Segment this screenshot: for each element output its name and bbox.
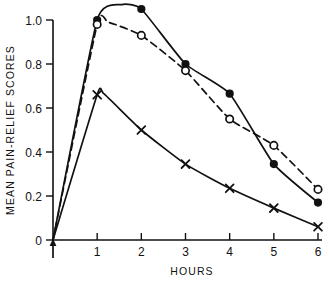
series-layer xyxy=(53,4,322,240)
x-tick-label: 6 xyxy=(315,245,322,259)
y-axis-title: MEAN PAIN-RELIEF SCORES xyxy=(4,45,16,215)
data-point-marker xyxy=(226,115,233,122)
chart-figure: 00.20.40.60.81.0 123456 MEAN PAIN-RELIEF… xyxy=(0,0,329,285)
dose-arrow-icon xyxy=(50,239,57,259)
open-circle-series-curve xyxy=(53,15,318,240)
y-tick-label: 0.4 xyxy=(25,146,42,160)
x-tick-label: 5 xyxy=(270,245,277,259)
y-tick-label: 0.2 xyxy=(25,190,42,204)
y-tick-label: 0 xyxy=(35,234,42,248)
x-tick-label: 2 xyxy=(138,245,145,259)
x-tick-label: 1 xyxy=(94,245,101,259)
data-point-marker xyxy=(182,67,189,74)
data-point-marker xyxy=(226,90,234,98)
data-point-marker xyxy=(270,142,277,149)
filled-circle-series xyxy=(53,4,322,240)
open-circle-series xyxy=(53,15,322,240)
y-tick-label: 0.8 xyxy=(25,58,42,72)
cross-series xyxy=(53,88,322,240)
data-point-marker xyxy=(314,223,322,231)
data-point-marker xyxy=(138,32,145,39)
pain-relief-line-chart: 00.20.40.60.81.0 123456 MEAN PAIN-RELIEF… xyxy=(0,0,329,285)
y-tick-label: 1.0 xyxy=(25,14,42,28)
data-point-marker xyxy=(93,91,101,99)
y-tick-label: 0.6 xyxy=(25,102,42,116)
data-point-marker xyxy=(270,204,278,212)
data-point-marker xyxy=(137,126,145,134)
data-point-marker xyxy=(137,5,145,13)
x-tick-label: 3 xyxy=(182,245,189,259)
data-point-marker xyxy=(182,160,190,168)
data-point-marker xyxy=(314,199,322,207)
data-point-marker xyxy=(270,160,278,168)
data-point-marker xyxy=(314,186,321,193)
x-tick-label: 4 xyxy=(226,245,233,259)
data-point-marker xyxy=(226,184,234,192)
y-tick-group: 00.20.40.60.81.0 xyxy=(25,14,53,248)
x-axis-title: HOURS xyxy=(170,265,213,277)
axes xyxy=(53,20,322,240)
x-tick-group: 123456 xyxy=(94,233,322,259)
data-point-marker xyxy=(93,21,100,28)
